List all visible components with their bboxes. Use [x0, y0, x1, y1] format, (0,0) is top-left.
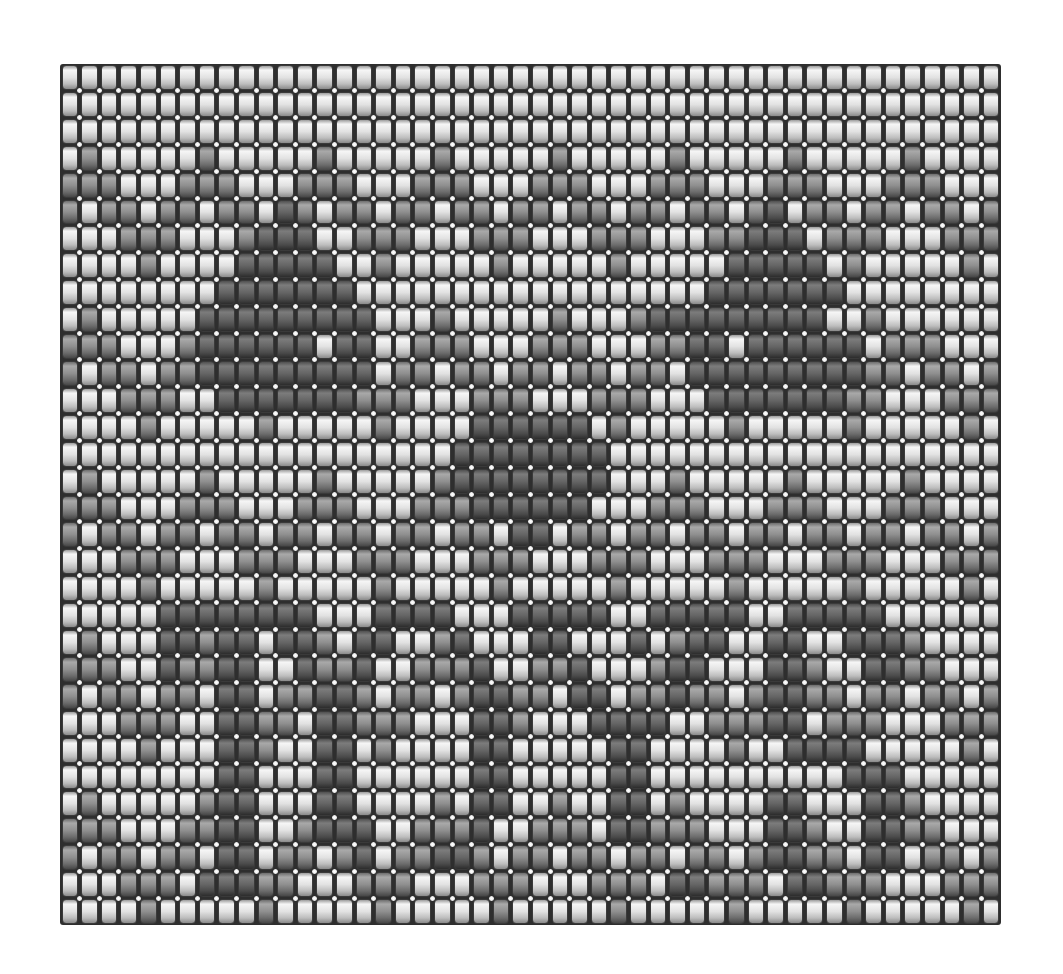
- bead-cell: [650, 711, 667, 736]
- bead-cell: [963, 92, 980, 117]
- bead-cell: [179, 576, 196, 601]
- bead-cell: [591, 630, 608, 655]
- bead-cell: [160, 657, 177, 682]
- bead-cell: [591, 576, 608, 601]
- bead-cell: [120, 603, 137, 628]
- bead-cell: [806, 226, 823, 251]
- bead-cell: [610, 791, 627, 816]
- bead-cell: [179, 765, 196, 790]
- bead-cell: [806, 845, 823, 870]
- bead-cell: [277, 630, 294, 655]
- bead-cell: [552, 92, 569, 117]
- bead-cell: [218, 226, 235, 251]
- bead-cell: [258, 469, 275, 494]
- bead-cell: [532, 65, 549, 90]
- bead-cell: [493, 630, 510, 655]
- bead-cell: [179, 119, 196, 144]
- bead-cell: [395, 200, 412, 225]
- bead-cell: [610, 818, 627, 843]
- bead-cell: [944, 576, 961, 601]
- bead-cell: [904, 200, 921, 225]
- bead-cell: [336, 765, 353, 790]
- bead-cell: [708, 818, 725, 843]
- bead-cell: [904, 845, 921, 870]
- bead-cell: [650, 92, 667, 117]
- bead-cell: [767, 119, 784, 144]
- bead-cell: [414, 899, 431, 924]
- bead-cell: [885, 603, 902, 628]
- bead-cell: [532, 657, 549, 682]
- bead-cell: [591, 603, 608, 628]
- bead-cell: [493, 307, 510, 332]
- bead-cell: [944, 226, 961, 251]
- bead-cell: [669, 361, 686, 386]
- bead-cell: [885, 549, 902, 574]
- bead-cell: [885, 576, 902, 601]
- bead-cell: [277, 845, 294, 870]
- bead-cell: [826, 496, 843, 521]
- bead-cell: [297, 469, 314, 494]
- bead-cell: [787, 549, 804, 574]
- bead-cell: [924, 711, 941, 736]
- bead-cell: [238, 576, 255, 601]
- bead-cell: [62, 818, 79, 843]
- bead-cell: [846, 576, 863, 601]
- bead-cell: [924, 630, 941, 655]
- bead-cell: [297, 791, 314, 816]
- bead-cell: [552, 200, 569, 225]
- bead-cell: [454, 899, 471, 924]
- bead-cell: [81, 657, 98, 682]
- bead-cell: [336, 872, 353, 897]
- bead-cell: [944, 765, 961, 790]
- bead-cell: [865, 253, 882, 278]
- bead-cell: [120, 200, 137, 225]
- bead-cell: [806, 119, 823, 144]
- bead-cell: [218, 899, 235, 924]
- bead-cell: [669, 684, 686, 709]
- bead-cell: [610, 684, 627, 709]
- bead-cell: [708, 226, 725, 251]
- bead-cell: [689, 872, 706, 897]
- bead-cell: [904, 765, 921, 790]
- bead-cell: [277, 119, 294, 144]
- bead-cell: [983, 280, 1000, 305]
- bead-cell: [120, 657, 137, 682]
- bead-cell: [552, 603, 569, 628]
- bead-cell: [62, 711, 79, 736]
- bead-cell: [258, 65, 275, 90]
- bead-cell: [885, 522, 902, 547]
- bead-cell: [375, 630, 392, 655]
- bead-cell: [218, 415, 235, 440]
- bead-cell: [846, 253, 863, 278]
- bead-cell: [62, 549, 79, 574]
- bead-cell: [160, 92, 177, 117]
- bead-cell: [865, 226, 882, 251]
- bead-cell: [356, 899, 373, 924]
- bead-cell: [258, 684, 275, 709]
- bead-cell: [81, 253, 98, 278]
- bead-cell: [336, 549, 353, 574]
- bead-cell: [767, 765, 784, 790]
- bead-cell: [865, 899, 882, 924]
- bead-cell: [532, 738, 549, 763]
- bead-cell: [689, 200, 706, 225]
- bead-cell: [610, 92, 627, 117]
- bead-cell: [395, 765, 412, 790]
- bead-cell: [748, 899, 765, 924]
- bead-cell: [434, 818, 451, 843]
- bead-cell: [846, 146, 863, 171]
- bead-cell: [552, 334, 569, 359]
- bead-cell: [983, 388, 1000, 413]
- bead-cell: [218, 361, 235, 386]
- bead-cell: [708, 200, 725, 225]
- bead-cell: [826, 415, 843, 440]
- bead-cell: [630, 415, 647, 440]
- bead-cell: [944, 845, 961, 870]
- bead-cell: [708, 765, 725, 790]
- bead-cell: [493, 415, 510, 440]
- bead-cell: [669, 899, 686, 924]
- bead-cell: [787, 146, 804, 171]
- bead-cell: [258, 765, 275, 790]
- bead-cell: [454, 119, 471, 144]
- bead-cell: [297, 845, 314, 870]
